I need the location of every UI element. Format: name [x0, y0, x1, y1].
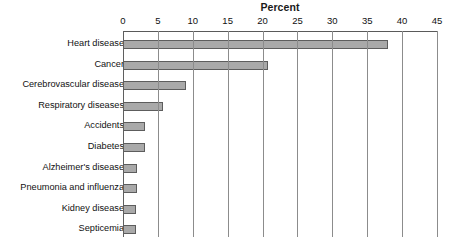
bar-row: Heart disease — [0, 36, 451, 56]
category-label: Septicemia — [79, 223, 124, 233]
gridline — [367, 31, 368, 237]
x-axis-line — [123, 31, 437, 32]
category-label: Alzheimer's disease — [43, 162, 124, 172]
gridline — [193, 31, 194, 237]
gridline — [297, 31, 298, 237]
bar — [123, 225, 136, 234]
category-label: Pneumonia and influenza — [20, 182, 124, 192]
y-axis-line — [123, 31, 124, 237]
bar — [123, 81, 186, 90]
bar-row: Alzheimer's disease — [0, 160, 451, 180]
x-tick-label: 35 — [355, 15, 379, 26]
category-label: Accidents — [84, 120, 124, 130]
bar-chart: Percent 051015202530354045 Heart disease… — [0, 0, 451, 243]
bar — [123, 143, 145, 152]
gridline — [402, 31, 403, 237]
plot-area: Heart diseaseCancerCerebrovascular disea… — [0, 36, 451, 237]
bar — [123, 184, 137, 193]
x-tick-label: 10 — [181, 15, 205, 26]
x-tick-label: 25 — [285, 15, 309, 26]
category-label: Kidney disease — [62, 203, 124, 213]
gridline — [158, 31, 159, 237]
gridline — [437, 31, 438, 237]
category-label: Respiratory diseases — [38, 100, 124, 110]
gridline — [332, 31, 333, 237]
bar-row: Cerebrovascular disease — [0, 77, 451, 97]
x-axis-tick-labels: 051015202530354045 — [0, 15, 451, 27]
category-label: Cancer — [94, 59, 124, 69]
category-label: Heart disease — [67, 38, 124, 48]
x-tick-label: 0 — [111, 15, 135, 26]
x-tick-label: 5 — [146, 15, 170, 26]
bar — [123, 61, 268, 70]
category-label: Diabetes — [88, 141, 124, 151]
x-tick-label: 20 — [251, 15, 275, 26]
bar — [123, 205, 136, 214]
gridline — [263, 31, 264, 237]
x-tick-label: 40 — [390, 15, 414, 26]
chart-title: Percent — [123, 1, 437, 13]
x-tick-label: 15 — [216, 15, 240, 26]
x-tick-label: 45 — [425, 15, 449, 26]
bar-row: Respiratory diseases — [0, 98, 451, 118]
bar-row: Cancer — [0, 57, 451, 77]
bar-row: Kidney disease — [0, 201, 451, 221]
bar-row: Septicemia — [0, 221, 451, 241]
bar — [123, 40, 388, 49]
gridline — [228, 31, 229, 237]
bar-row: Accidents — [0, 118, 451, 138]
bar-row: Pneumonia and influenza — [0, 180, 451, 200]
bar-row: Diabetes — [0, 139, 451, 159]
bar — [123, 102, 163, 111]
bar — [123, 122, 145, 131]
category-label: Cerebrovascular disease — [22, 79, 124, 89]
x-tick-label: 30 — [320, 15, 344, 26]
bar — [123, 164, 137, 173]
